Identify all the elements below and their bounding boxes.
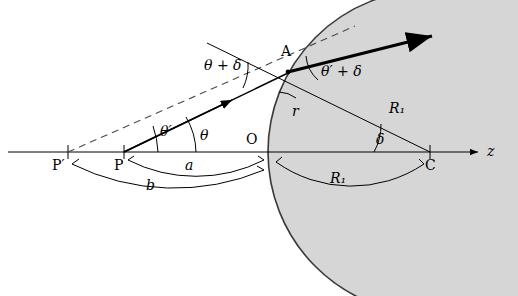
angle-arc-theta-plus-delta bbox=[243, 62, 248, 88]
label-radius-top: R₁ bbox=[389, 101, 405, 115]
point-markers bbox=[286, 70, 291, 75]
ray-diagram-svg bbox=[0, 0, 518, 296]
label-radius-bottom: R₁ bbox=[330, 171, 346, 185]
label-angle-theta-prime-plus-delta: θ′ + δ bbox=[321, 64, 362, 78]
distance-measure-a bbox=[128, 156, 264, 176]
label-angle-theta-prime: θ′ bbox=[160, 124, 172, 138]
label-angle-r: r bbox=[292, 104, 299, 118]
figure-canvas: P′ P O A C z θ θ′ θ + δ θ′ + δ δ r a b R… bbox=[0, 0, 518, 296]
label-angle-theta-plus-delta: θ + δ bbox=[204, 58, 242, 72]
label-point-p-prime: P′ bbox=[52, 158, 65, 172]
angle-arc-theta-prime bbox=[153, 126, 158, 152]
label-distance-b: b bbox=[146, 178, 155, 192]
label-distance-a: a bbox=[185, 158, 193, 172]
label-point-p: P bbox=[114, 158, 123, 172]
label-point-c: C bbox=[425, 158, 436, 172]
angle-arc-theta bbox=[186, 117, 196, 152]
label-point-a: A bbox=[281, 44, 291, 58]
label-axis-z: z bbox=[487, 144, 494, 158]
label-angle-delta: δ bbox=[376, 132, 384, 146]
label-angle-theta: θ bbox=[200, 128, 208, 142]
label-point-o: O bbox=[246, 132, 257, 146]
